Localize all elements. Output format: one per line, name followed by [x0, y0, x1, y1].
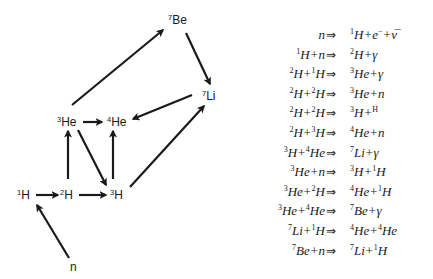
- element-symbol: Be: [172, 13, 187, 27]
- reactants: 2H+2H: [289, 84, 325, 104]
- reaction-row: 3He+4He⇒7Be+γ: [250, 201, 433, 221]
- implies-arrow-icon: ⇒: [323, 241, 339, 261]
- implies-arrow-icon: ⇒: [323, 64, 339, 84]
- implies-arrow-icon: ⇒: [323, 84, 339, 104]
- arrow-icon-H3-to-Li7: [130, 106, 204, 187]
- reactants: 3He+n: [291, 162, 325, 182]
- products: 3H+H: [350, 103, 378, 123]
- nuclide-node-He3: 3He: [57, 116, 77, 128]
- reaction-row: 7Be+n⇒7Li+1H: [250, 241, 433, 261]
- reaction-row: 3He+n⇒3H+1H: [250, 162, 433, 182]
- element-symbol: He: [111, 115, 126, 129]
- reactants: 3He+4He: [278, 201, 325, 221]
- arrow-icon-He3-to-Be7: [72, 30, 163, 105]
- element-symbol: H: [21, 188, 30, 202]
- reaction-row: 2H+2H⇒3H+H: [250, 103, 433, 123]
- reaction-row: 3He+2H⇒4He+1H: [250, 182, 433, 202]
- nuclide-node-H3: 3H: [110, 189, 123, 201]
- reactants: 2H+3H: [289, 123, 325, 143]
- reactants: 2H+2H: [289, 103, 325, 123]
- implies-arrow-icon: ⇒: [323, 162, 339, 182]
- reaction-row: 2H+3H⇒4He+n: [250, 123, 433, 143]
- implies-arrow-icon: ⇒: [323, 182, 339, 202]
- element-symbol: H: [64, 188, 73, 202]
- nuclide-node-H2: 2H: [60, 189, 73, 201]
- reactants: 3He+2H: [284, 182, 325, 202]
- reactants: 3H+4He: [284, 143, 325, 163]
- reaction-row: 2H+2H⇒3He+n: [250, 84, 433, 104]
- reactants: 1H+n: [296, 45, 325, 65]
- reactants: 2H+1H: [289, 64, 325, 84]
- nuclide-node-n: n: [70, 261, 77, 273]
- element-symbol: n: [70, 260, 77, 274]
- products: 3He+n: [350, 84, 384, 104]
- element-symbol: He: [61, 115, 76, 129]
- products: 7Be+γ: [350, 201, 382, 221]
- arrow-icon-Li7-to-He4: [133, 95, 192, 119]
- products: 4He+4He: [350, 221, 397, 241]
- products: 7Li+γ: [350, 143, 379, 163]
- products: 3H+1H: [350, 162, 386, 182]
- implies-arrow-icon: ⇒: [323, 123, 339, 143]
- products: 1H+e−+ν̅: [350, 25, 397, 45]
- implies-arrow-icon: ⇒: [323, 143, 339, 163]
- reactants: 7Be+n: [292, 241, 325, 261]
- products: 2H+γ: [350, 45, 377, 65]
- arrow-icon-Be7-to-Li7: [186, 33, 210, 84]
- reaction-row: n⇒1H+e−+ν̅: [250, 25, 433, 45]
- products: 4He+n: [350, 123, 384, 143]
- reaction-row: 1H+n⇒2H+γ: [250, 45, 433, 65]
- element-symbol: H: [114, 188, 123, 202]
- nuclide-node-Li7: 7Li: [202, 90, 216, 102]
- implies-arrow-icon: ⇒: [323, 201, 339, 221]
- element-symbol: Li: [206, 89, 215, 103]
- reactants: 7Li+1H: [288, 221, 325, 241]
- reaction-row: 2H+1H⇒3He+γ: [250, 64, 433, 84]
- implies-arrow-icon: ⇒: [323, 25, 339, 45]
- arrow-icon-n-to-H1: [37, 205, 69, 258]
- nuclide-node-Be7: 7Be: [168, 14, 187, 26]
- nuclide-node-He4: 4He: [107, 116, 127, 128]
- products: 3He+γ: [350, 64, 383, 84]
- nuclide-node-H1: 1H: [17, 189, 30, 201]
- implies-arrow-icon: ⇒: [323, 103, 339, 123]
- arrow-icon-He3-to-H3: [78, 130, 106, 185]
- reaction-row: 3H+4He⇒7Li+γ: [250, 143, 433, 163]
- products: 4He+1H: [350, 182, 391, 202]
- products: 7Li+1H: [350, 241, 387, 261]
- reaction-row: 7Li+1H⇒4He+4He: [250, 221, 433, 241]
- implies-arrow-icon: ⇒: [323, 221, 339, 241]
- implies-arrow-icon: ⇒: [323, 45, 339, 65]
